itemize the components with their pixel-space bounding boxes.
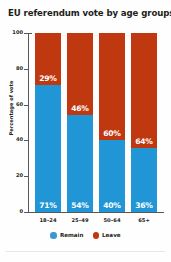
bar-segment-remain[interactable]: 71% [35,85,61,212]
bar-segment-leave[interactable]: 64% [131,33,157,148]
bar-group-65-plus[interactable]: 64% 36% [131,33,157,212]
bar-label-leave: 46% [67,104,93,113]
y-axis-top-cap [28,33,32,34]
y-tick-mark [24,33,28,34]
bar-segment-leave[interactable]: 29% [35,33,61,85]
y-tick-label: 20 [16,172,23,178]
y-tick-label: 60 [16,101,23,107]
bar-segment-remain[interactable]: 40% [99,140,125,212]
chart-figure: EU referendum vote by age groups Percent… [0,0,171,262]
bar-group-18-24[interactable]: 29% 71% [35,33,61,212]
page-title: EU referendum vote by age groups [8,8,166,18]
legend-item-remain[interactable]: Remain [50,232,83,239]
bar-label-remain: 54% [67,201,93,210]
x-axis-line [28,212,164,213]
chart-legend: Remain Leave [0,232,171,239]
x-tick-label-65-plus: 65+ [131,217,157,223]
bar-label-remain: 71% [35,201,61,210]
y-tick-mark [24,176,28,177]
y-tick-mark [24,69,28,70]
legend-label-remain: Remain [60,232,84,238]
x-tick-label-18-24: 18–24 [35,217,61,223]
x-tick-label-50-64: 50–64 [99,217,125,223]
bottom-divider [6,251,165,252]
bar-segment-remain[interactable]: 54% [67,115,93,212]
bar-segment-remain[interactable]: 36% [131,148,157,212]
x-tick-label-25-49: 25–49 [67,217,93,223]
y-tick-label: 0 [19,208,23,214]
plot-area: 100 80 60 40 20 0 29% 71% [28,33,164,212]
bar-segment-leave[interactable]: 60% [99,33,125,140]
bar-group-50-64[interactable]: 60% 40% [99,33,125,212]
y-tick-label: 100 [12,29,23,35]
y-tick-mark [24,105,28,106]
bar-label-leave: 64% [131,137,157,146]
y-axis-title: Percentage of vote [8,63,14,153]
legend-label-leave: Leave [102,232,121,238]
bar-label-remain: 40% [99,201,125,210]
y-tick-label: 40 [16,136,23,142]
bar-group-25-49[interactable]: 46% 54% [67,33,93,212]
legend-swatch-circle-icon [93,232,100,239]
y-tick-mark [24,212,28,213]
y-tick-mark [24,140,28,141]
bar-label-leave: 60% [99,129,125,138]
bar-label-remain: 36% [131,201,157,210]
legend-swatch-circle-icon [50,232,57,239]
legend-item-leave[interactable]: Leave [93,232,121,239]
bar-label-leave: 29% [35,74,61,83]
y-tick-label: 80 [16,65,23,71]
y-axis-line [28,33,29,212]
bar-segment-leave[interactable]: 46% [67,33,93,115]
